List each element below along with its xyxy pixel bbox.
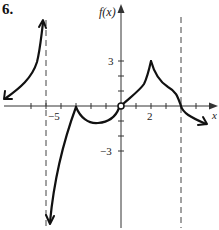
y-axis-arrow-icon bbox=[118, 4, 125, 13]
x-tick-label-2: 2 bbox=[147, 110, 153, 122]
middle-right-fall bbox=[151, 61, 181, 106]
middle-left-rise bbox=[50, 107, 76, 222]
x-tick-label-neg5: −5 bbox=[48, 110, 60, 122]
function-graph: f(x) x −5 2 3 −3 bbox=[0, 0, 219, 230]
vertical-asymptotes bbox=[46, 17, 181, 228]
y-tick-label-3: 3 bbox=[108, 55, 114, 67]
curve bbox=[6, 23, 206, 222]
left-branch bbox=[6, 23, 43, 98]
y-axis bbox=[118, 4, 125, 228]
middle-left-dip bbox=[76, 107, 119, 123]
middle-right-rise bbox=[123, 61, 151, 104]
y-tick-label-neg3: −3 bbox=[100, 145, 112, 157]
x-axis-label: x bbox=[211, 109, 217, 121]
right-branch bbox=[181, 106, 206, 124]
open-point-origin bbox=[118, 103, 124, 109]
x-axis bbox=[4, 103, 218, 110]
y-axis-label: f(x) bbox=[99, 5, 116, 19]
